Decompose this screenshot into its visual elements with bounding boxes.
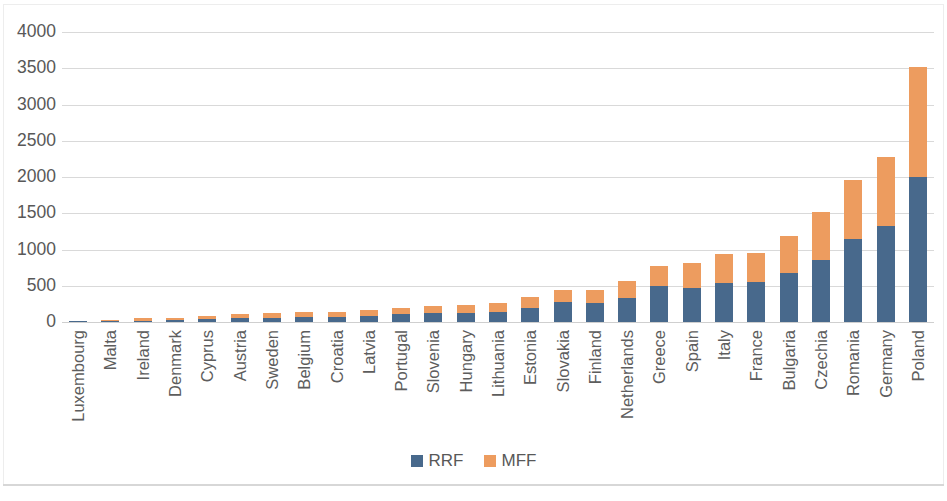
stacked-bar[interactable] (101, 320, 119, 322)
bar-slot[interactable] (514, 32, 546, 322)
bar-segment-rrf[interactable] (618, 298, 636, 322)
bar-slot[interactable] (902, 32, 934, 322)
bar-segment-rrf[interactable] (489, 312, 507, 322)
bar-segment-rrf[interactable] (554, 302, 572, 322)
bar-segment-rrf[interactable] (586, 303, 604, 322)
bar-segment-rrf[interactable] (650, 286, 668, 322)
bar-segment-mff[interactable] (650, 266, 668, 286)
bar-segment-mff[interactable] (586, 290, 604, 302)
stacked-bar[interactable] (231, 314, 249, 322)
stacked-bar[interactable] (328, 312, 346, 323)
bar-segment-rrf[interactable] (812, 260, 830, 322)
bar-segment-rrf[interactable] (328, 317, 346, 322)
bar-segment-rrf[interactable] (360, 316, 378, 322)
stacked-bar[interactable] (521, 297, 539, 322)
legend-item[interactable]: RRF (411, 452, 464, 469)
bar-segment-mff[interactable] (877, 157, 895, 226)
bar-slot[interactable] (223, 32, 255, 322)
bar-slot[interactable] (643, 32, 675, 322)
bar-slot[interactable] (256, 32, 288, 322)
stacked-bar[interactable] (554, 290, 572, 322)
bar-slot[interactable] (417, 32, 449, 322)
bar-slot[interactable] (62, 32, 94, 322)
bar-segment-rrf[interactable] (101, 321, 119, 322)
bar-segment-rrf[interactable] (166, 320, 184, 322)
bar-segment-rrf[interactable] (392, 314, 410, 322)
bar-slot[interactable] (353, 32, 385, 322)
bar-segment-mff[interactable] (489, 303, 507, 312)
bar-slot[interactable] (288, 32, 320, 322)
bar-segment-mff[interactable] (554, 290, 572, 302)
stacked-bar[interactable] (780, 236, 798, 322)
bar-segment-rrf[interactable] (263, 318, 281, 322)
stacked-bar[interactable] (877, 157, 895, 322)
bar-segment-mff[interactable] (812, 212, 830, 259)
bar-segment-rrf[interactable] (844, 239, 862, 322)
bar-segment-rrf[interactable] (780, 273, 798, 322)
stacked-bar[interactable] (295, 312, 313, 322)
bar-segment-rrf[interactable] (69, 321, 87, 322)
bar-slot[interactable] (482, 32, 514, 322)
stacked-bar[interactable] (650, 266, 668, 322)
bar-slot[interactable] (546, 32, 578, 322)
bar-slot[interactable] (450, 32, 482, 322)
stacked-bar[interactable] (489, 303, 507, 322)
bar-segment-mff[interactable] (618, 281, 636, 298)
bar-slot[interactable] (611, 32, 643, 322)
bar-segment-mff[interactable] (780, 236, 798, 272)
legend-item[interactable]: MFF (484, 452, 537, 469)
stacked-bar[interactable] (683, 263, 701, 322)
bar-segment-mff[interactable] (844, 180, 862, 240)
bar-segment-rrf[interactable] (877, 226, 895, 322)
bar-segment-rrf[interactable] (295, 317, 313, 322)
stacked-bar[interactable] (198, 316, 216, 322)
bar-segment-mff[interactable] (715, 254, 733, 283)
bar-slot[interactable] (708, 32, 740, 322)
stacked-bar[interactable] (715, 254, 733, 322)
bar-segment-rrf[interactable] (715, 283, 733, 322)
stacked-bar[interactable] (360, 310, 378, 322)
bar-segment-rrf[interactable] (683, 288, 701, 322)
stacked-bar[interactable] (812, 212, 830, 322)
bar-slot[interactable] (159, 32, 191, 322)
bar-slot[interactable] (740, 32, 772, 322)
bar-segment-mff[interactable] (457, 305, 475, 313)
bar-segment-mff[interactable] (909, 67, 927, 177)
bar-segment-rrf[interactable] (198, 319, 216, 322)
bar-slot[interactable] (869, 32, 901, 322)
bar-segment-mff[interactable] (424, 306, 442, 314)
bar-slot[interactable] (320, 32, 352, 322)
bar-segment-mff[interactable] (747, 253, 765, 282)
stacked-bar[interactable] (166, 318, 184, 322)
stacked-bar[interactable] (134, 318, 152, 322)
bar-slot[interactable] (579, 32, 611, 322)
bar-segment-mff[interactable] (521, 297, 539, 308)
bar-slot[interactable] (191, 32, 223, 322)
bar-segment-rrf[interactable] (134, 321, 152, 322)
bar-slot[interactable] (805, 32, 837, 322)
bar-slot[interactable] (385, 32, 417, 322)
stacked-bar[interactable] (424, 306, 442, 322)
bar-segment-rrf[interactable] (909, 177, 927, 322)
stacked-bar[interactable] (263, 313, 281, 322)
bar-segment-rrf[interactable] (747, 282, 765, 322)
bar-segment-mff[interactable] (683, 263, 701, 288)
stacked-bar[interactable] (909, 67, 927, 322)
bar-slot[interactable] (773, 32, 805, 322)
bar-segment-rrf[interactable] (457, 313, 475, 322)
bar-segment-rrf[interactable] (521, 308, 539, 322)
stacked-bar[interactable] (392, 308, 410, 322)
stacked-bar[interactable] (747, 253, 765, 322)
bar-slot[interactable] (127, 32, 159, 322)
bar-segment-rrf[interactable] (231, 318, 249, 322)
bar-slot[interactable] (94, 32, 126, 322)
stacked-bar[interactable] (457, 305, 475, 322)
bar-slot[interactable] (837, 32, 869, 322)
bar-slot[interactable] (676, 32, 708, 322)
stacked-bar[interactable] (69, 321, 87, 322)
bar-segment-rrf[interactable] (424, 313, 442, 322)
stacked-bar[interactable] (586, 290, 604, 322)
bar-segment-mff[interactable] (392, 308, 410, 315)
stacked-bar[interactable] (844, 180, 862, 322)
stacked-bar[interactable] (618, 281, 636, 322)
